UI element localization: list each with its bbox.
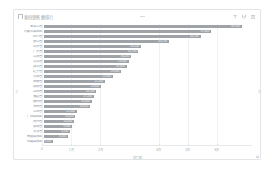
bar-value-label: 10,900 bbox=[65, 115, 74, 118]
bar-row[interactable]: 吉林省16,000 bbox=[20, 105, 252, 108]
bar-row[interactable]: 新疆自治区8,300 bbox=[20, 135, 252, 138]
bar-row[interactable]: 四川省54,200 bbox=[20, 35, 252, 38]
bar-chart-icon[interactable] bbox=[241, 14, 247, 20]
x-axis-ticklabels: 01万2万4万5万6万 bbox=[42, 147, 252, 153]
bar[interactable]: 10,400 bbox=[44, 120, 74, 123]
y-axis-label: 安徽省 bbox=[20, 80, 44, 83]
y-axis-label: 广西自治区 bbox=[20, 115, 44, 118]
bar-value-label: 9,800 bbox=[63, 125, 70, 128]
y-axis-label: 四川省 bbox=[20, 35, 44, 38]
bar-row[interactable]: 陕西省16,500 bbox=[20, 100, 252, 103]
bar[interactable]: 9,100 bbox=[44, 130, 70, 133]
bar-row[interactable]: 辽宁省26,800 bbox=[20, 70, 252, 73]
bar[interactable]: 16,000 bbox=[44, 105, 90, 108]
y-axis-label: 云南省 bbox=[20, 125, 44, 128]
bar-row[interactable]: 广东省32,700 bbox=[20, 50, 252, 53]
bar[interactable]: 54,200 bbox=[44, 35, 201, 38]
y-axis-label: 山东省 bbox=[20, 45, 44, 48]
x-axis-tick bbox=[100, 144, 101, 146]
bar-row[interactable]: 山西省18,100 bbox=[20, 90, 252, 93]
bar[interactable]: 8,300 bbox=[44, 135, 68, 138]
bar-row[interactable]: 福建省17,200 bbox=[20, 95, 252, 98]
bar[interactable]: 17,200 bbox=[44, 95, 94, 98]
bar-row[interactable]: 云南省9,800 bbox=[20, 125, 252, 128]
card-header-left: 省份销售额排行 bbox=[18, 14, 53, 20]
bar-value-label: 3,100 bbox=[44, 140, 51, 143]
bar[interactable]: 9,800 bbox=[44, 125, 72, 128]
bar-track: 16,500 bbox=[44, 100, 252, 103]
bar-row[interactable]: 西藏自治区3,100 bbox=[20, 140, 252, 143]
y-axis-label: 浙江省 bbox=[20, 40, 44, 43]
bar[interactable]: 18,100 bbox=[44, 90, 96, 93]
bar[interactable]: 43,200 bbox=[44, 40, 169, 43]
bar[interactable]: 30,200 bbox=[44, 55, 131, 58]
y-axis-label: 贵州省 bbox=[20, 120, 44, 123]
bar-row[interactable]: 内蒙古自治区57,800 bbox=[20, 30, 252, 33]
bar[interactable]: 3,100 bbox=[44, 140, 53, 143]
y-axis-label: 陕西省 bbox=[20, 100, 44, 103]
y-axis-label: 黑龙江省 bbox=[20, 25, 44, 28]
bar-row[interactable]: 河北省29,300 bbox=[20, 60, 252, 63]
bar[interactable]: 28,600 bbox=[44, 65, 127, 68]
bar-track: 16,000 bbox=[44, 105, 252, 108]
y-axis-label: 辽宁省 bbox=[20, 70, 44, 73]
bar-row[interactable]: 湖北省28,600 bbox=[20, 65, 252, 68]
bar-row[interactable]: 甘肃省9,100 bbox=[20, 130, 252, 133]
y-axis-label: 广东省 bbox=[20, 50, 44, 53]
bar-value-label: 19,800 bbox=[91, 85, 100, 88]
bar[interactable]: 32,700 bbox=[44, 50, 138, 53]
y-axis-label: 湖北省 bbox=[20, 65, 44, 68]
bar-value-label: 54,200 bbox=[190, 35, 199, 38]
bar[interactable]: 19,800 bbox=[44, 85, 101, 88]
next-page-icon[interactable] bbox=[256, 88, 260, 96]
bar-row[interactable]: 江西省11,300 bbox=[20, 110, 252, 113]
bar-value-label: 30,200 bbox=[121, 55, 130, 58]
x-axis-ticklabel: 0 bbox=[41, 147, 43, 151]
bar[interactable]: 10,900 bbox=[44, 115, 75, 118]
bar-rows: 黑龙江省68,500内蒙古自治区57,800四川省54,200浙江省43,200… bbox=[20, 24, 252, 144]
bar[interactable]: 26,800 bbox=[44, 70, 121, 73]
filter-icon[interactable] bbox=[233, 14, 239, 20]
x-axis-ticklabel: 4万 bbox=[156, 147, 161, 152]
pin-icon[interactable] bbox=[18, 14, 22, 19]
bar-track: 26,800 bbox=[44, 70, 252, 73]
bar-track: 9,800 bbox=[44, 125, 252, 128]
prev-page-icon[interactable] bbox=[15, 88, 19, 96]
menu-icon[interactable] bbox=[250, 14, 256, 20]
chart-card: 省份销售额排行 黑龙江省68,500内蒙古自治区57,800四川省54,200浙… bbox=[13, 9, 261, 160]
card-toolbar bbox=[233, 14, 256, 20]
bar-row[interactable]: 黑龙江省68,500 bbox=[20, 25, 252, 28]
bar-track: 32,700 bbox=[44, 50, 252, 53]
bar[interactable]: 23,900 bbox=[44, 75, 113, 78]
bar-row[interactable]: 广西自治区10,900 bbox=[20, 115, 252, 118]
bar-row[interactable]: 湖南省19,800 bbox=[20, 85, 252, 88]
bar-row[interactable]: 河南省23,900 bbox=[20, 75, 252, 78]
bar-row[interactable]: 贵州省10,400 bbox=[20, 120, 252, 123]
y-axis-label: 吉林省 bbox=[20, 105, 44, 108]
bar[interactable]: 68,500 bbox=[44, 25, 242, 28]
bar-row[interactable]: 安徽省21,100 bbox=[20, 80, 252, 83]
bar-value-label: 18,100 bbox=[86, 90, 95, 93]
bar-value-label: 10,400 bbox=[63, 120, 72, 123]
x-axis-line bbox=[42, 145, 252, 146]
bar-row[interactable]: 江苏省30,200 bbox=[20, 55, 252, 58]
y-axis-label: 山西省 bbox=[20, 90, 44, 93]
bar-track: 43,200 bbox=[44, 40, 252, 43]
bar-track: 29,300 bbox=[44, 60, 252, 63]
chart-plot-area: 黑龙江省68,500内蒙古自治区57,800四川省54,200浙江省43,200… bbox=[14, 23, 260, 161]
bar[interactable]: 21,100 bbox=[44, 80, 105, 83]
bar-row[interactable]: 浙江省43,200 bbox=[20, 40, 252, 43]
bar[interactable]: 16,500 bbox=[44, 100, 92, 103]
card-header-divider bbox=[53, 16, 233, 17]
bar[interactable]: 11,300 bbox=[44, 110, 77, 113]
bar[interactable]: 57,800 bbox=[44, 30, 211, 33]
bar[interactable]: 33,500 bbox=[44, 45, 141, 48]
bar-track: 57,800 bbox=[44, 30, 252, 33]
x-axis-tick bbox=[217, 144, 218, 146]
bar-value-label: 26,800 bbox=[111, 70, 120, 73]
y-axis-label: 西藏自治区 bbox=[20, 140, 44, 143]
resize-handle[interactable] bbox=[255, 154, 259, 158]
bar[interactable]: 29,300 bbox=[44, 60, 129, 63]
bar-track: 33,500 bbox=[44, 45, 252, 48]
bar-row[interactable]: 山东省33,500 bbox=[20, 45, 252, 48]
